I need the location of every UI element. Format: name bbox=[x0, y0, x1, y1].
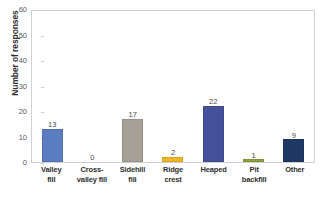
x-tick-label: Other bbox=[274, 165, 315, 184]
bar-slot: 13 bbox=[32, 11, 72, 162]
bar-value-label: 13 bbox=[48, 121, 56, 129]
clipped-caption-strip bbox=[0, 193, 322, 204]
y-tick-label: 60 bbox=[11, 6, 27, 14]
x-tick-label-line: Valley bbox=[31, 165, 72, 175]
bar-slot: 9 bbox=[274, 11, 314, 162]
bar-value-label: 22 bbox=[209, 98, 217, 106]
x-tick-label: Cross-valley fill bbox=[72, 165, 113, 184]
y-axis-tick-labels: 6050403020100 bbox=[11, 10, 27, 163]
bar-slot: 22 bbox=[193, 11, 233, 162]
bar-slot: 0 bbox=[72, 11, 112, 162]
x-tick-label: Ridgecrest bbox=[153, 165, 194, 184]
x-tick-label: Valleyfill bbox=[31, 165, 72, 184]
x-tick-label: Heaped bbox=[193, 165, 234, 184]
x-tick-label-line: Pit bbox=[234, 165, 275, 175]
x-tick-label-line: fill bbox=[112, 175, 153, 185]
x-tick-label: Sidehillfill bbox=[112, 165, 153, 184]
bar-slot: 17 bbox=[113, 11, 153, 162]
bar[interactable]: 17 bbox=[122, 119, 143, 162]
y-tick-label: 20 bbox=[11, 108, 27, 116]
bar-value-label: 0 bbox=[90, 154, 94, 162]
y-tick-label: 10 bbox=[11, 134, 27, 142]
bar[interactable]: 13 bbox=[42, 129, 63, 162]
y-tick-label: 40 bbox=[11, 57, 27, 65]
bar[interactable]: 22 bbox=[203, 106, 224, 162]
bar-slot: 2 bbox=[153, 11, 193, 162]
bar-value-label: 17 bbox=[129, 111, 137, 119]
y-tick-label: 30 bbox=[11, 83, 27, 91]
x-tick-label-line: Ridge bbox=[153, 165, 194, 175]
x-tick-label-line: Cross- bbox=[72, 165, 113, 175]
y-tick-label: 0 bbox=[11, 159, 27, 167]
bars-layer: 1301722219 bbox=[32, 11, 314, 162]
x-tick-label-line: crest bbox=[153, 175, 194, 185]
bar-chart-figure: Number of responses 6050403020100 130172… bbox=[0, 0, 322, 204]
x-axis-tick-labels: ValleyfillCross-valley fillSidehillfillR… bbox=[31, 165, 315, 184]
bar[interactable]: 9 bbox=[283, 139, 304, 162]
x-tick-label-line: backfill bbox=[234, 175, 275, 185]
bar-value-label: 2 bbox=[171, 149, 175, 157]
bar[interactable]: 1 bbox=[243, 159, 264, 162]
bar-value-label: 9 bbox=[292, 132, 296, 140]
bar-value-label: 1 bbox=[251, 152, 255, 160]
bar[interactable]: 2 bbox=[162, 157, 183, 162]
x-tick-label-line: fill bbox=[31, 175, 72, 185]
x-tick-label: Pitbackfill bbox=[234, 165, 275, 184]
plot-area: 1301722219 bbox=[31, 10, 315, 163]
y-tick-mark bbox=[41, 163, 44, 164]
x-tick-label-line: valley fill bbox=[72, 175, 113, 185]
x-tick-label-line: Other bbox=[274, 165, 315, 175]
y-tick-label: 50 bbox=[11, 32, 27, 40]
bar-slot: 1 bbox=[233, 11, 273, 162]
x-tick-label-line: Sidehill bbox=[112, 165, 153, 175]
x-tick-label-line: Heaped bbox=[193, 165, 234, 175]
